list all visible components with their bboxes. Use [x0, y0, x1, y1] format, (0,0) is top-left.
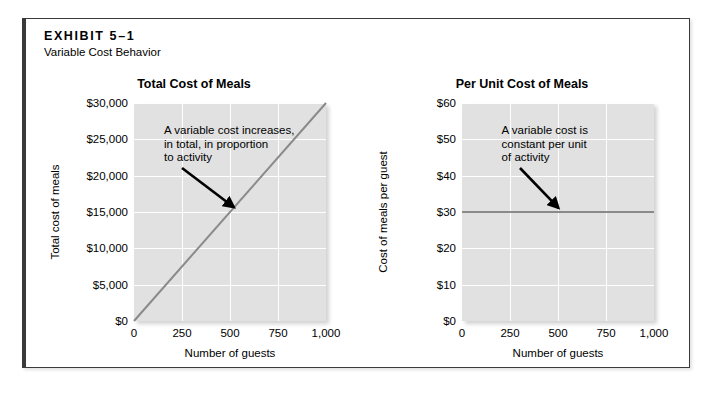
annotation-line: A variable cost increases,: [164, 124, 294, 138]
x-axis-title: Number of guests: [134, 347, 326, 359]
x-axis-tick-label: 500: [548, 327, 567, 339]
exhibit-frame: EXHIBIT 5–1 Variable Cost Behavior Total…: [22, 18, 690, 368]
x-axis-tick-label: 0: [131, 327, 137, 339]
x-axis-tick-label: 250: [172, 327, 191, 339]
chart-total-cost-of-meals: Total Cost of Meals$0$5,000$10,000$15,00…: [34, 77, 354, 357]
annotation-line: constant per unit: [502, 138, 588, 152]
y-axis-title: Cost of meals per guest: [376, 151, 388, 272]
annotation-arrow-icon: [168, 154, 248, 221]
annotation-line: in total, in proportion: [164, 138, 294, 152]
x-axis-tick-label: 750: [596, 327, 615, 339]
y-axis-tick-label: $50: [437, 133, 456, 145]
y-axis-tick-label: $25,000: [86, 133, 128, 145]
annotation-line: A variable cost is: [502, 124, 588, 138]
y-axis-tick-label: $60: [437, 97, 456, 109]
annotation-arrow-icon: [506, 154, 572, 222]
chart-title: Per Unit Cost of Meals: [362, 77, 682, 91]
y-axis-tick-label: $10,000: [86, 242, 128, 254]
y-axis-tick-label: $0: [443, 315, 456, 327]
y-axis-tick-label: $20: [437, 242, 456, 254]
x-axis-tick-label: 750: [268, 327, 287, 339]
chart-title: Total Cost of Meals: [34, 77, 354, 91]
y-axis-tick-label: $40: [437, 170, 456, 182]
y-axis-tick-label: $30: [437, 206, 456, 218]
y-axis-tick-label: $30,000: [86, 97, 128, 109]
y-axis-tick-label: $15,000: [86, 206, 128, 218]
chart-per-unit-cost-of-meals: Per Unit Cost of Meals$0$10$20$30$40$50$…: [362, 77, 682, 357]
y-axis-tick-label: $5,000: [93, 279, 128, 291]
x-axis-tick-label: 1,000: [640, 327, 669, 339]
y-axis-tick-label: $10: [437, 279, 456, 291]
x-axis-tick-label: 250: [500, 327, 519, 339]
y-axis-tick-label: $20,000: [86, 170, 128, 182]
exhibit-header: EXHIBIT 5–1 Variable Cost Behavior: [44, 29, 161, 58]
x-axis-tick-label: 500: [220, 327, 239, 339]
x-axis-title: Number of guests: [462, 347, 654, 359]
y-axis-title: Total cost of meals: [48, 164, 60, 259]
y-axis-tick-label: $0: [115, 315, 128, 327]
x-axis-tick-label: 1,000: [312, 327, 341, 339]
x-axis-tick-label: 0: [459, 327, 465, 339]
exhibit-label: EXHIBIT 5–1: [44, 29, 161, 43]
exhibit-subtitle: Variable Cost Behavior: [44, 46, 161, 58]
